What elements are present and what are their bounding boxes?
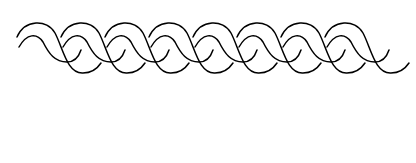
strand-outer-edge <box>193 23 277 73</box>
strand-inner-edge <box>283 36 345 62</box>
strand-outer-edge <box>281 23 365 73</box>
strand-inner-edge <box>327 36 389 62</box>
strand-inner-edge <box>19 36 81 62</box>
strand-outer-edge <box>325 23 409 73</box>
strand-outer-edge <box>17 23 101 73</box>
strand-inner-edge <box>195 36 257 62</box>
rope-border-drawing <box>0 0 416 163</box>
strand-outer-edge <box>149 23 233 73</box>
strand-outer-edge <box>105 23 189 73</box>
strand-outer-edge <box>61 23 145 73</box>
strand-inner-edge <box>107 36 169 62</box>
strand-inner-edge <box>63 36 125 62</box>
strand-inner-edge <box>151 36 213 62</box>
strand-inner-edge <box>239 36 301 62</box>
rope-strands <box>17 23 409 73</box>
strand-outer-edge <box>237 23 321 73</box>
